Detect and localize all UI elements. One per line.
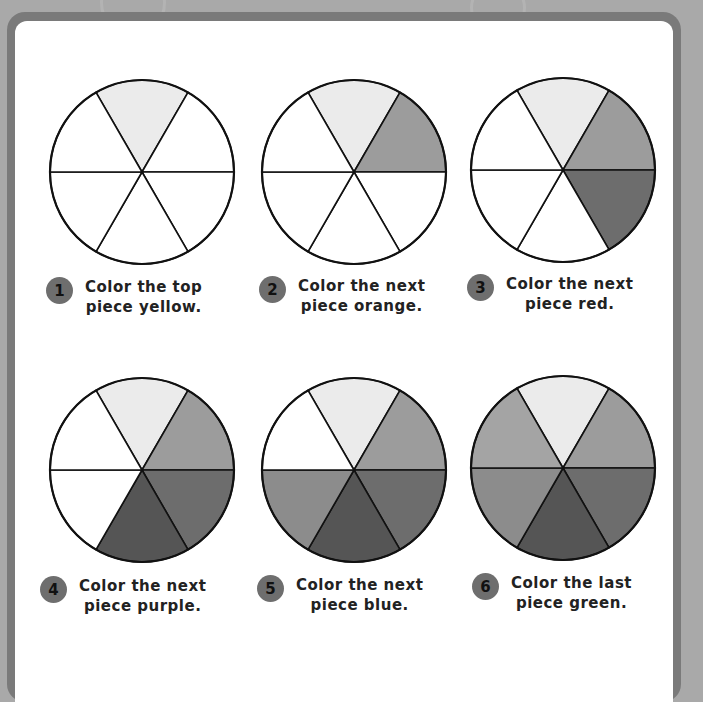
instruction-line-2: piece red.	[506, 294, 633, 314]
step-instruction: Color the next piece purple.	[79, 576, 206, 616]
color-wheel-5	[258, 374, 450, 566]
instruction-line-2: piece green.	[511, 593, 632, 613]
step-number-badge: 2	[259, 276, 286, 303]
instruction-line-1: Color the top	[85, 277, 202, 297]
step-number-badge: 4	[40, 576, 67, 603]
color-wheel-1	[46, 76, 238, 268]
step-2: 2 Color the next piece orange.	[259, 276, 425, 316]
color-wheel-2	[258, 76, 450, 268]
instruction-line-1: Color the last	[511, 573, 632, 593]
color-wheel-6	[467, 372, 659, 564]
step-instruction: Color the next piece orange.	[298, 276, 425, 316]
instruction-line-2: piece orange.	[298, 296, 425, 316]
color-wheel-4	[46, 374, 238, 566]
instruction-line-2: piece purple.	[79, 596, 206, 616]
step-number-badge: 5	[257, 575, 284, 602]
step-instruction: Color the next piece red.	[506, 274, 633, 314]
step-number-badge: 6	[472, 573, 499, 600]
step-3: 3 Color the next piece red.	[467, 274, 633, 314]
instruction-line-2: piece yellow.	[85, 297, 202, 317]
step-instruction: Color the top piece yellow.	[85, 277, 202, 317]
step-4: 4 Color the next piece purple.	[40, 576, 206, 616]
instruction-line-1: Color the next	[506, 274, 633, 294]
instruction-line-1: Color the next	[79, 576, 206, 596]
instruction-line-1: Color the next	[296, 575, 423, 595]
step-instruction: Color the next piece blue.	[296, 575, 423, 615]
color-wheel-3	[467, 74, 659, 266]
instruction-line-2: piece blue.	[296, 595, 423, 615]
step-instruction: Color the last piece green.	[511, 573, 632, 613]
step-number-badge: 1	[46, 277, 73, 304]
step-6: 6 Color the last piece green.	[472, 573, 632, 613]
step-number-badge: 3	[467, 274, 494, 301]
step-5: 5 Color the next piece blue.	[257, 575, 423, 615]
instruction-line-1: Color the next	[298, 276, 425, 296]
step-1: 1 Color the top piece yellow.	[46, 277, 202, 317]
